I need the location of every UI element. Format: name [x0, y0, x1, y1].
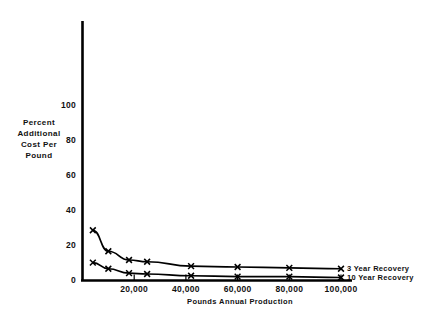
y-axis-title-line-1: Percent	[8, 117, 70, 128]
y-axis-tick-label: 20	[52, 240, 76, 250]
data-series-layer	[90, 227, 344, 280]
x-axis-title: Pounds Annual Production	[145, 296, 335, 307]
series-line	[93, 230, 341, 269]
data-series	[90, 227, 344, 271]
series-line	[93, 263, 341, 278]
axes-group	[81, 21, 352, 281]
y-axis-tick-label: 100	[52, 100, 76, 110]
series-label-3-year-recovery: 3 Year Recovery	[347, 264, 409, 273]
y-axis-tick-label: 80	[52, 135, 76, 145]
chart-figure: Percent Additional Cost Per Pound Pounds…	[0, 0, 444, 326]
x-axis-tick-label: 100,000	[311, 284, 371, 294]
series-label-10-year-recovery: 10 Year Recovery	[347, 273, 414, 282]
data-series	[90, 260, 344, 281]
y-axis-tick-label: 0	[52, 275, 76, 285]
y-axis-tick-label: 40	[52, 205, 76, 215]
y-axis-tick-label: 60	[52, 170, 76, 180]
y-axis-title-line-4: Pound	[8, 150, 70, 161]
